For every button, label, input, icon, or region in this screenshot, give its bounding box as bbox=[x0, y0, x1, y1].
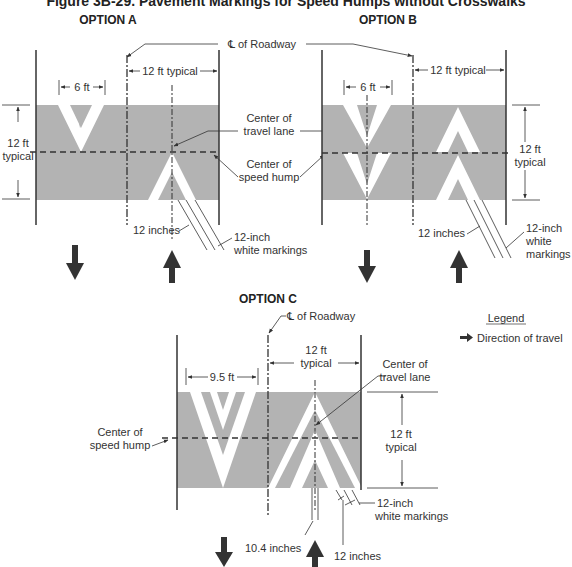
dim-lane-width: 12 ft typical bbox=[430, 64, 486, 76]
option-b-heading: OPTION B bbox=[359, 13, 417, 27]
svg-text:white: white bbox=[525, 235, 552, 247]
legend-item-direction: Direction of travel bbox=[477, 332, 563, 344]
svg-text:markings: markings bbox=[526, 248, 571, 260]
direction-arrow-up bbox=[306, 540, 324, 567]
figure-title: Figure 3B-29. Pavement Markings for Spee… bbox=[46, 0, 525, 9]
label-10-4-inches: 10.4 inches bbox=[245, 542, 302, 554]
svg-text:12 ft: 12 ft bbox=[305, 344, 326, 356]
label-12-inches: 12 inches bbox=[133, 224, 181, 236]
svg-text:12 ft: 12 ft bbox=[7, 137, 28, 149]
direction-arrow-up bbox=[450, 250, 468, 283]
option-a: OPTION A 6 ft 12 ft typical 12 ft bbox=[2, 13, 308, 283]
option-c: OPTION C ℄ of Roadway 9.5 ft 12 ft typic… bbox=[90, 292, 449, 567]
svg-text:Center of: Center of bbox=[97, 426, 143, 438]
roadway-centerline-label: ℄ of Roadway bbox=[227, 38, 297, 50]
option-b: OPTION B 6 ft 12 ft typical 12 ft typica… bbox=[322, 13, 571, 283]
direction-arrow-down bbox=[66, 245, 84, 280]
svg-text:Center of: Center of bbox=[246, 112, 292, 124]
dim-9-5ft: 9.5 ft bbox=[210, 371, 234, 383]
svg-text:travel lane: travel lane bbox=[244, 125, 295, 137]
label-12-inches: 12 inches bbox=[334, 550, 382, 562]
dim-6ft: 6 ft bbox=[360, 81, 375, 93]
svg-text:12-inch: 12-inch bbox=[526, 222, 562, 234]
option-a-heading: OPTION A bbox=[79, 13, 137, 27]
svg-text:typical: typical bbox=[514, 156, 545, 168]
speed-hump-diagram: Figure 3B-29. Pavement Markings for Spee… bbox=[0, 0, 572, 567]
direction-arrow-up bbox=[163, 250, 181, 283]
svg-text:12-inch: 12-inch bbox=[234, 231, 270, 243]
option-c-heading: OPTION C bbox=[239, 292, 297, 306]
svg-text:typical: typical bbox=[300, 357, 331, 369]
svg-text:travel lane: travel lane bbox=[380, 371, 431, 383]
svg-text:typical: typical bbox=[385, 441, 416, 453]
svg-text:speed hump: speed hump bbox=[239, 171, 300, 183]
legend: Legend Direction of travel bbox=[460, 312, 563, 344]
direction-arrow-down bbox=[215, 537, 233, 567]
svg-text:Center of: Center of bbox=[382, 358, 428, 370]
legend-heading: Legend bbox=[488, 312, 525, 324]
dim-6ft: 6 ft bbox=[74, 81, 89, 93]
svg-text:12 ft: 12 ft bbox=[519, 143, 540, 155]
svg-text:white markings: white markings bbox=[374, 510, 449, 522]
svg-text:white markings: white markings bbox=[233, 244, 308, 256]
roadway-centerline-label: ℄ of Roadway bbox=[286, 310, 356, 322]
svg-text:Center of: Center of bbox=[246, 158, 292, 170]
dim-lane-width: 12 ft typical bbox=[142, 65, 198, 77]
direction-arrow-down bbox=[358, 250, 376, 283]
svg-text:12-inch: 12-inch bbox=[377, 497, 413, 509]
svg-text:speed hump: speed hump bbox=[90, 439, 151, 451]
label-12-inches: 12 inches bbox=[418, 227, 466, 239]
legend-arrow-icon bbox=[460, 333, 473, 342]
svg-text:12 ft: 12 ft bbox=[390, 428, 411, 440]
svg-text:typical: typical bbox=[2, 150, 33, 162]
